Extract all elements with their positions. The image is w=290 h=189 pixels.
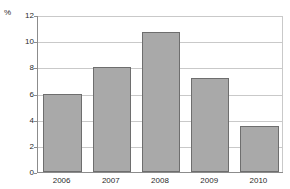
x-tick-label-2007: 2007	[91, 176, 131, 185]
y-axis-unit-label: %	[4, 8, 11, 18]
x-tick-label-2006: 2006	[42, 176, 82, 185]
x-tick-label-2009: 2009	[189, 176, 229, 185]
bar-2010	[240, 126, 278, 172]
y-tick-mark-0	[34, 173, 37, 174]
bar-2006	[43, 94, 81, 173]
y-tick-label-8: 8	[12, 64, 34, 72]
y-tick-label-10: 10	[12, 38, 34, 46]
bar-2007	[93, 67, 131, 172]
y-tick-label-0: 0	[12, 169, 34, 177]
bar-chart: % 024681012 20062007200820092010	[0, 0, 290, 189]
plot-area	[37, 16, 283, 173]
bar-2009	[191, 78, 229, 172]
bars-layer	[38, 16, 283, 172]
bar-2008	[142, 32, 180, 172]
y-tick-label-12: 12	[12, 12, 34, 20]
x-tick-label-2008: 2008	[140, 176, 180, 185]
y-tick-label-6: 6	[12, 91, 34, 99]
x-tick-label-2010: 2010	[238, 176, 278, 185]
y-tick-label-2: 2	[12, 143, 34, 151]
y-tick-label-4: 4	[12, 117, 34, 125]
